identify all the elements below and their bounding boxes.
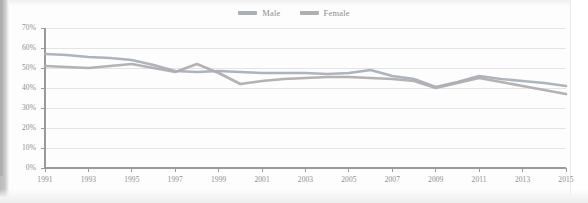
x-axis-tick-label: 1999 [204, 175, 234, 184]
y-axis-tick-label: 20% [10, 123, 36, 132]
x-axis-tick-label: 1997 [160, 175, 190, 184]
x-axis-tick-label: 2015 [551, 175, 581, 184]
x-axis-tick-label: 2005 [334, 175, 364, 184]
x-axis-tick-label: 1993 [73, 175, 103, 184]
chart-page: Male Female 0%10%20%30%40%50%60%70% 1991… [0, 0, 588, 203]
chart-plot-area: 0%10%20%30%40%50%60%70% 1991199319951997… [0, 0, 588, 203]
x-axis-tick-label: 1991 [30, 175, 60, 184]
chart-line-male [45, 54, 566, 87]
y-axis-tick-label: 60% [10, 43, 36, 52]
y-axis-tick-label: 70% [10, 23, 36, 32]
scan-bottom-fade-artifact [0, 189, 588, 203]
chart-x-tick-marks [45, 168, 566, 172]
chart-gridlines [45, 28, 566, 168]
x-axis-tick-label: 1995 [117, 175, 147, 184]
x-axis-tick-label: 2009 [421, 175, 451, 184]
y-axis-tick-label: 50% [10, 63, 36, 72]
y-axis-tick-label: 40% [10, 83, 36, 92]
x-axis-tick-label: 2007 [377, 175, 407, 184]
x-axis-tick-label: 2001 [247, 175, 277, 184]
y-axis-tick-label: 30% [10, 103, 36, 112]
y-axis-tick-label: 10% [10, 143, 36, 152]
chart-svg [0, 0, 588, 203]
y-axis-tick-label: 0% [10, 163, 36, 172]
x-axis-tick-label: 2011 [464, 175, 494, 184]
x-axis-tick-label: 2003 [291, 175, 321, 184]
x-axis-tick-label: 2013 [508, 175, 538, 184]
